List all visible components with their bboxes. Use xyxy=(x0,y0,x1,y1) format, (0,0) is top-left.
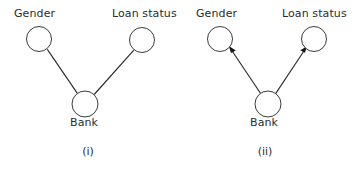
node-bank-ii xyxy=(255,91,281,117)
edge-bank-gender xyxy=(47,49,77,93)
node-label-gender-ii: Gender xyxy=(196,8,237,20)
node-gender-i xyxy=(27,27,52,52)
edge-bank-loan xyxy=(94,50,134,94)
diagram-panel-ii: Gender Loan status Bank (ii) xyxy=(180,0,360,176)
edge-bank-loan-line xyxy=(276,49,306,93)
node-label-bank-ii: Bank xyxy=(250,117,278,129)
panel-caption-ii: (ii) xyxy=(237,146,293,158)
node-gender-ii xyxy=(208,27,233,52)
node-label-loan-status-ii: Loan status xyxy=(282,8,347,20)
figure-canvas: Gender Loan status Bank (i) Gender Loan … xyxy=(0,0,360,176)
node-label-bank-i: Bank xyxy=(70,117,98,129)
node-loan-status-i xyxy=(130,28,155,53)
node-loan-status-ii xyxy=(302,27,327,52)
node-label-loan-status-i: Loan status xyxy=(112,8,177,20)
node-label-gender-i: Gender xyxy=(14,8,55,20)
panel-caption-i: (i) xyxy=(60,146,116,158)
diagram-panel-i: Gender Loan status Bank (i) xyxy=(0,0,180,176)
node-bank-i xyxy=(72,91,98,117)
edge-bank-gender-line xyxy=(231,49,261,94)
